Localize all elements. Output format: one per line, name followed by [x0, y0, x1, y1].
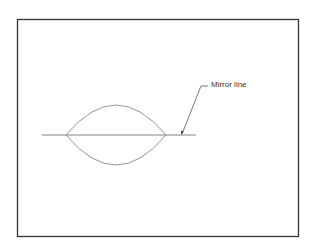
frame-border [18, 20, 299, 237]
mirror-line-label: Mirror line [211, 80, 247, 89]
mirror-diagram [0, 0, 312, 250]
